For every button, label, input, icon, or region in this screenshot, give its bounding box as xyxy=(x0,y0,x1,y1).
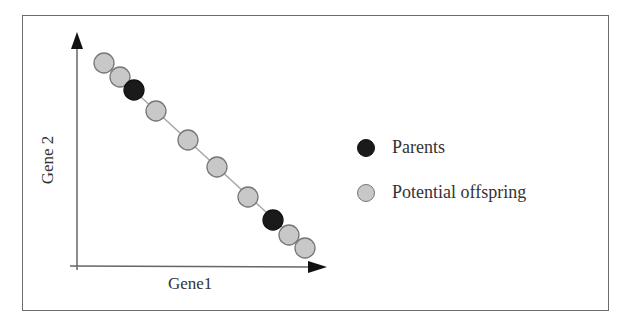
parent-point xyxy=(263,210,283,230)
offspring-point xyxy=(178,130,198,150)
scatter-plot xyxy=(0,0,628,327)
legend-item-parents: Parents xyxy=(357,137,445,158)
offspring-point xyxy=(146,101,166,121)
offspring-point xyxy=(94,53,114,73)
y-axis-label: Gene 2 xyxy=(38,130,58,190)
legend-item-offspring: Potential offspring xyxy=(357,182,526,203)
offspring-point xyxy=(279,225,299,245)
x-axis-line xyxy=(70,266,313,267)
offspring-point xyxy=(295,238,315,258)
offspring-point xyxy=(238,187,258,207)
legend-label-offspring: Potential offspring xyxy=(392,182,526,203)
legend-label-parents: Parents xyxy=(392,137,445,158)
parent-point xyxy=(124,80,144,100)
x-axis-label: Gene1 xyxy=(168,274,212,294)
offspring-point xyxy=(207,157,227,177)
offspring-dot-icon xyxy=(357,184,375,202)
parents-dot-icon xyxy=(357,139,375,157)
y-axis-arrow-icon xyxy=(71,32,83,49)
x-axis-arrow-icon xyxy=(308,261,327,273)
